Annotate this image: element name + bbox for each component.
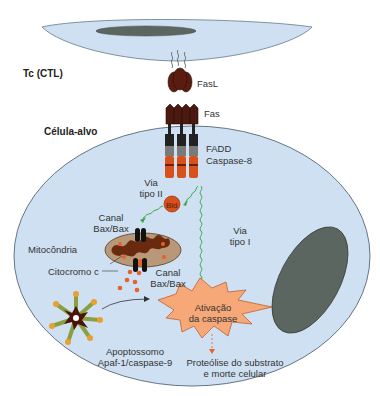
- cytochrome-c-label: Citocromo c: [48, 266, 99, 277]
- bax-channel-top-label-1: Canal: [86, 212, 136, 223]
- bax-channel-bottom-label-1: Canal: [148, 267, 188, 278]
- fasl-label: FasL: [197, 78, 218, 89]
- effector-nucleus: [96, 26, 196, 36]
- bax-channel-bottom-label-2: Bax/Bax: [146, 278, 190, 289]
- caspase-activation-label-1: Ativação: [188, 302, 238, 313]
- fasl-trimer: [168, 68, 192, 92]
- effector-cell: [42, 19, 312, 61]
- apoptosome-label-2: Apaf-1/caspase-9: [90, 357, 180, 368]
- apoptosome-label-1: Apoptossomo: [90, 346, 180, 357]
- bid-label: Bid: [166, 200, 178, 211]
- outcome-label-1: Proteólise do substrato: [180, 357, 290, 368]
- mitochondria-label: Mitocôndria: [28, 244, 77, 255]
- type2-pathway-label-1: Via: [134, 177, 168, 188]
- target-cell-label: Célula-alvo: [44, 126, 97, 137]
- bax-channel-top-label-2: Bax/Bax: [86, 223, 136, 234]
- type1-pathway-label-2: tipo I: [223, 236, 257, 247]
- fas-label: Fas: [204, 108, 220, 119]
- type2-pathway-label-2: tipo II: [134, 188, 168, 199]
- fadd-label: FADD: [206, 143, 231, 154]
- caspase-activation-label-2: da caspase: [183, 313, 243, 324]
- apoptosis-diagram: [0, 0, 380, 396]
- outcome-label-2: e morte celular: [180, 368, 290, 379]
- fas-receptors: [166, 104, 198, 124]
- effector-cell-label: Tc (CTL): [23, 68, 63, 79]
- fadd-caspase8-complex: [165, 134, 198, 178]
- caspase8-label: Caspase-8: [206, 155, 252, 166]
- type1-pathway-label-1: Via: [223, 225, 257, 236]
